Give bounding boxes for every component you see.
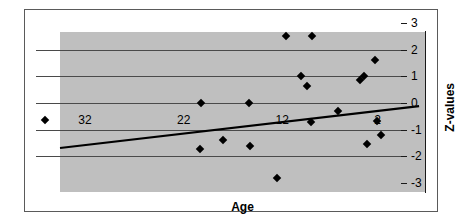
y-axis-tick-label: 1 xyxy=(411,70,418,82)
y-axis-tick xyxy=(401,76,407,77)
y-axis-tick-label: -3 xyxy=(411,177,422,189)
x-axis-tick-label: 12 xyxy=(276,114,289,126)
y-axis-tick-label: -2 xyxy=(411,150,422,162)
y-axis-tick xyxy=(401,23,407,24)
y-axis-tick xyxy=(401,50,407,51)
trendline xyxy=(60,32,425,192)
y-axis-tick xyxy=(401,156,407,157)
data-point xyxy=(41,116,49,124)
chart-frame: 3210-1-2-3 3222122 Z-values Age xyxy=(24,9,438,212)
y-axis-tick-label: -1 xyxy=(411,124,422,136)
x-axis-title: Age xyxy=(60,200,425,214)
y-axis-tick xyxy=(401,130,407,131)
y-axis-tick-label: 0 xyxy=(411,97,418,109)
y-axis-tick-label: 3 xyxy=(411,17,418,29)
value-axis-line xyxy=(425,31,426,193)
x-axis-tick-label: 22 xyxy=(177,114,190,126)
scatter-chart-figure: 3210-1-2-3 3222122 Z-values Age xyxy=(0,0,464,224)
y-axis-title: Z-values xyxy=(443,83,457,132)
y-axis-tick xyxy=(401,183,407,184)
x-axis-tick-label: 2 xyxy=(374,114,381,126)
y-axis-tick xyxy=(401,103,407,104)
y-axis-tick-label: 2 xyxy=(411,44,418,56)
x-axis-tick-label: 32 xyxy=(78,114,91,126)
